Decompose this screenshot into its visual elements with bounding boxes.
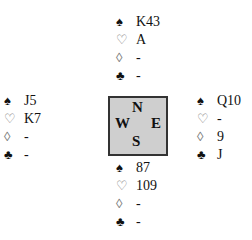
compass-table: N W E S	[108, 96, 168, 156]
south-clubs: ♣-	[116, 213, 157, 231]
east-hand: ♠Q10 ♡- ◊9 ♣J	[197, 92, 241, 164]
diamond-icon: ◊	[197, 128, 217, 146]
club-icon: ♣	[4, 146, 24, 164]
west-hearts: ♡K7	[4, 110, 41, 128]
west-spades: ♠J5	[4, 92, 41, 110]
heart-icon: ♡	[116, 177, 136, 195]
diamond-icon: ◊	[116, 49, 136, 67]
south-hearts: ♡109	[116, 177, 157, 195]
north-hearts: ♡A	[116, 31, 160, 49]
east-spades: ♠Q10	[197, 92, 241, 110]
north-diamonds: ◊-	[116, 49, 160, 67]
heart-icon: ♡	[4, 110, 24, 128]
spade-icon: ♠	[116, 159, 136, 177]
club-icon: ♣	[116, 213, 136, 231]
east-diamonds: ◊9	[197, 128, 241, 146]
compass-west: W	[115, 115, 130, 132]
east-hearts: ♡-	[197, 110, 241, 128]
north-hand: ♠K43 ♡A ◊- ♣-	[116, 13, 160, 85]
west-clubs: ♣-	[4, 146, 41, 164]
heart-icon: ♡	[197, 110, 217, 128]
west-diamonds: ◊-	[4, 128, 41, 146]
club-icon: ♣	[116, 67, 136, 85]
compass-south: S	[132, 133, 140, 150]
south-spades: ♠87	[116, 159, 157, 177]
south-hand: ♠87 ♡109 ◊- ♣-	[116, 159, 157, 231]
spade-icon: ♠	[116, 13, 136, 31]
compass-east: E	[151, 115, 161, 132]
north-clubs: ♣-	[116, 67, 160, 85]
north-spades: ♠K43	[116, 13, 160, 31]
heart-icon: ♡	[116, 31, 136, 49]
east-clubs: ♣J	[197, 146, 241, 164]
club-icon: ♣	[197, 146, 217, 164]
diamond-icon: ◊	[116, 195, 136, 213]
south-diamonds: ◊-	[116, 195, 157, 213]
diamond-icon: ◊	[4, 128, 24, 146]
spade-icon: ♠	[197, 92, 217, 110]
spade-icon: ♠	[4, 92, 24, 110]
compass-north: N	[132, 99, 143, 116]
west-hand: ♠J5 ♡K7 ◊- ♣-	[4, 92, 41, 164]
